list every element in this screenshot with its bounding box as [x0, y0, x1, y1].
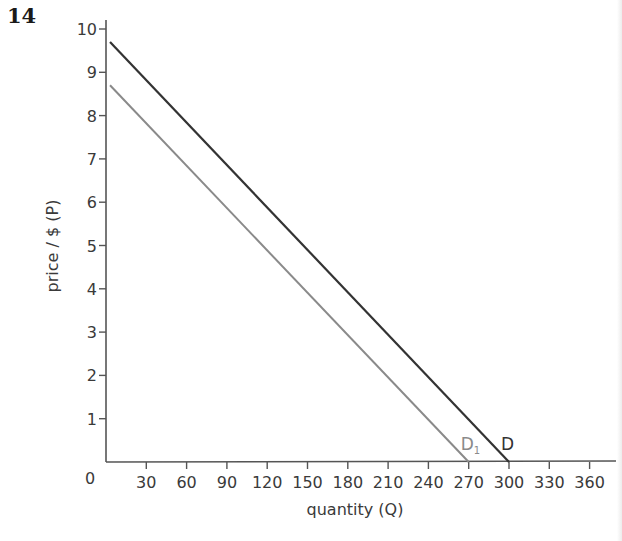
y-tick-label: 4 — [87, 280, 97, 299]
demand-curves: DD1 — [110, 42, 514, 462]
x-tick-label: 30 — [136, 473, 156, 492]
x-tick-label: 270 — [453, 473, 484, 492]
x-tick-label: 150 — [292, 473, 323, 492]
curve-label-d: D — [501, 434, 514, 454]
x-tick-label: 300 — [494, 473, 525, 492]
x-axis-title: quantity (Q) — [307, 500, 404, 519]
y-tick-label: 3 — [87, 323, 97, 342]
x-tick-label: 180 — [333, 473, 364, 492]
y-tick-label: 8 — [87, 107, 97, 126]
y-tick-label: 6 — [87, 193, 97, 212]
origin-label: 0 — [85, 469, 95, 488]
curve-d — [110, 42, 509, 462]
y-axis-title: price / $ (P) — [43, 200, 62, 293]
y-tick-label: 1 — [87, 410, 97, 429]
x-tick-label: 60 — [176, 473, 196, 492]
y-tick-label: 10 — [77, 20, 97, 39]
x-tick-label: 330 — [534, 473, 565, 492]
curve-label-d1: D1 — [461, 434, 480, 456]
x-axis-ticks: 306090120150180210240270300330360 — [136, 462, 605, 492]
y-tick-label: 7 — [87, 150, 97, 169]
x-tick-label: 90 — [217, 473, 237, 492]
axes — [106, 20, 616, 462]
page-edge-shadow — [617, 0, 622, 541]
curve-d1 — [110, 85, 469, 462]
y-tick-label: 5 — [87, 237, 97, 256]
x-tick-label: 360 — [574, 473, 605, 492]
y-tick-label: 9 — [87, 63, 97, 82]
x-tick-label: 240 — [413, 473, 444, 492]
x-tick-label: 210 — [373, 473, 404, 492]
y-tick-label: 2 — [87, 366, 97, 385]
x-tick-label: 120 — [252, 473, 283, 492]
x-axis-line — [106, 461, 616, 462]
demand-chart: 12345678910 3060901201501802102402703003… — [0, 0, 622, 541]
y-axis-ticks: 12345678910 — [77, 20, 106, 429]
